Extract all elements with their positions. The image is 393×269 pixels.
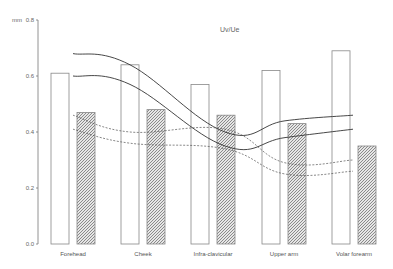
y-axis: 0.00.20.40.60.8mm [12, 17, 38, 247]
bar-hatched [147, 110, 165, 244]
y-tick-label: 0.0 [26, 241, 35, 247]
bar-open [191, 84, 209, 244]
x-category-label: Upper arm [270, 251, 298, 257]
bars [51, 51, 376, 244]
dashed-line [73, 129, 353, 175]
y-tick-label: 0.2 [26, 185, 35, 191]
bar-open [262, 70, 280, 244]
solid-line [73, 76, 353, 150]
lines [73, 54, 353, 176]
x-category-label: Infra-clavicular [193, 251, 232, 257]
bar-open [332, 51, 350, 244]
chart-title: Uv/Ue [220, 26, 240, 33]
y-tick-label: 0.8 [26, 17, 35, 23]
bar-open [121, 65, 139, 244]
bar-open [51, 73, 69, 244]
bar-hatched [77, 112, 95, 244]
y-tick-label: 0.6 [26, 73, 35, 79]
solid-line [73, 54, 353, 136]
dashed-line [73, 115, 353, 165]
x-category-label: Forehead [60, 251, 86, 257]
chart: Uv/Ue 0.00.20.40.60.8mm ForeheadCheekInf… [0, 0, 393, 269]
bar-hatched [358, 146, 376, 244]
x-axis-labels: ForeheadCheekInfra-clavicularUpper armVo… [60, 251, 372, 257]
x-category-label: Volar forearm [336, 251, 372, 257]
y-tick-label: 0.4 [26, 129, 35, 135]
bar-hatched [288, 124, 306, 244]
y-unit-label: mm [12, 17, 22, 23]
x-category-label: Cheek [134, 251, 152, 257]
